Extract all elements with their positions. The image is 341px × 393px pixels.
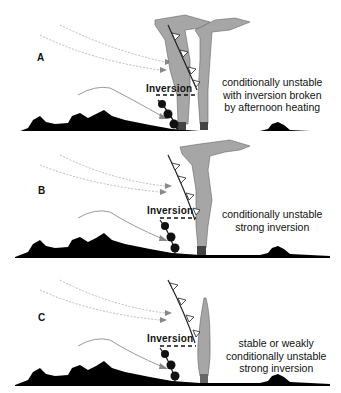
panel-b-drawing (0, 130, 341, 261)
panel-caption: stable or weakly conditionally unstable … (226, 337, 326, 375)
plume (198, 298, 211, 376)
inversion-label: Inversion (147, 333, 193, 344)
panel-letter: B (38, 185, 45, 196)
panel-caption: conditionally unstable strong inversion (222, 208, 322, 233)
inversion-label: Inversion (146, 83, 192, 94)
panel-letter: C (38, 312, 45, 323)
panel-a: A Inversion conditionally unstable with … (0, 0, 341, 131)
panel-letter: A (37, 52, 44, 63)
panel-b: B Inversion conditionally unstable stron… (0, 130, 341, 261)
panel-caption: conditionally unstable with inversion br… (222, 76, 322, 114)
inversion-label: Inversion (147, 205, 193, 216)
panel-c: C Inversion stable or weakly conditional… (0, 258, 341, 389)
wind-arrows (40, 25, 165, 70)
